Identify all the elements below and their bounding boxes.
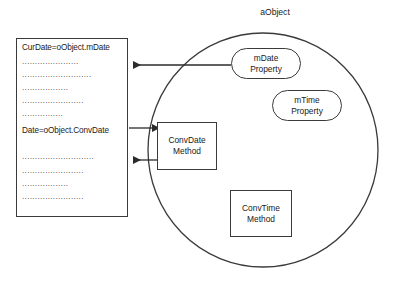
method-convtime[interactable]: ConvTime Method [230, 190, 292, 237]
property-mdate-name: mDate [254, 53, 279, 64]
method-convtime-stereotype: Method [247, 214, 275, 225]
property-mtime-stereotype: Property [291, 106, 323, 117]
property-mdate[interactable]: mDate Property [231, 48, 301, 79]
method-convdate-stereotype: Method [173, 146, 201, 157]
property-mtime[interactable]: mTime Property [272, 90, 342, 121]
code-ellipsis-line: ............................ [22, 152, 94, 161]
code-ellipsis-line: ........................... [22, 70, 91, 79]
code-ellipsis-line: .................. [22, 83, 68, 92]
object-title: aObject [240, 7, 310, 17]
code-ellipsis-line: ........................ [22, 192, 84, 201]
code-ellipsis-line: ........................ [22, 166, 84, 175]
code-ellipsis-line: ................ [22, 109, 63, 118]
property-mdate-stereotype: Property [250, 64, 282, 75]
method-convtime-name: ConvTime [242, 203, 280, 214]
code-ellipsis-line: ........................ [22, 96, 84, 105]
method-convdate-name: ConvDate [168, 135, 205, 146]
code-listing-box: CurDate=oObject.mDate...................… [16, 38, 128, 217]
code-ellipsis-line: .................. [22, 179, 68, 188]
diagram-canvas: aObject CurDate=oObject.mDate...........… [0, 0, 396, 282]
code-statement-line: Date=oObject.ConvDate [22, 126, 109, 135]
method-convdate[interactable]: ConvDate Method [157, 122, 217, 170]
code-ellipsis-line: ...................... [22, 57, 79, 66]
property-mtime-name: mTime [294, 95, 319, 106]
code-statement-line: CurDate=oObject.mDate [22, 43, 110, 52]
